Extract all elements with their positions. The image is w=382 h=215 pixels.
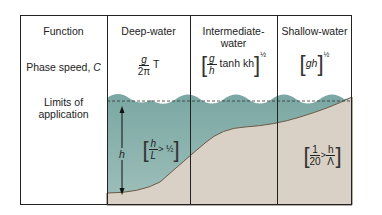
depth-label: h (116, 148, 128, 160)
row-header-function: Function (20, 25, 107, 37)
column-divider (107, 15, 108, 205)
formula-intermediate-water: [gh tanh kh]½ (190, 53, 277, 76)
column-divider (277, 15, 278, 205)
col-header-intermediate-water: Intermediate-water (190, 25, 277, 49)
formula-deep-water: g2π T (107, 54, 190, 77)
limit-deep-water: [hL> ½] (136, 138, 186, 161)
limit-shallow-water: [120>hΛ] (295, 144, 350, 167)
row-header-limits: Limits ofapplication (20, 96, 107, 120)
col-header-deep-water: Deep-water (107, 25, 190, 37)
col-header-shallow-water: Shallow-water (277, 25, 352, 37)
row-header-phase-speed: Phase speed, C (20, 61, 107, 73)
formula-shallow-water: [gh]½ (277, 53, 352, 75)
